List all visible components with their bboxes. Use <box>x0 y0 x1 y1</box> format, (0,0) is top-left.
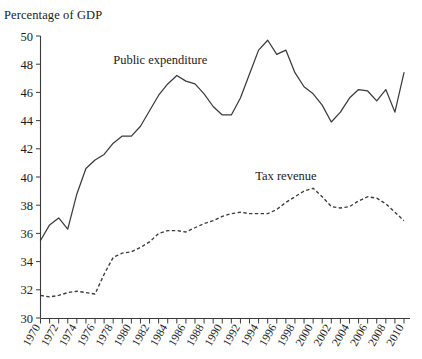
x-tick-label: 1974 <box>57 322 79 348</box>
x-tick-label: 1986 <box>166 322 188 348</box>
y-tick-label: 44 <box>21 114 34 128</box>
x-tick-label: 1972 <box>39 322 61 348</box>
y-tick-label: 40 <box>21 171 34 185</box>
x-tick-label: 1994 <box>238 322 260 348</box>
x-tick-label: 1980 <box>111 322 133 348</box>
x-tick-label: 1988 <box>184 322 206 348</box>
x-tick-label: 1992 <box>220 322 242 348</box>
chart-container: Percentage of GDP 5048464442403836343230… <box>0 0 422 359</box>
x-tick-label: 2010 <box>384 322 406 348</box>
line-chart: 5048464442403836343230 19701972197419761… <box>0 0 422 359</box>
y-axis-tick-marks <box>36 36 41 318</box>
x-tick-label: 2002 <box>311 322 333 348</box>
y-tick-label: 36 <box>21 227 34 241</box>
x-tick-label: 2008 <box>366 322 388 348</box>
x-tick-label: 1984 <box>148 322 170 348</box>
series-line-public-expenditure <box>41 40 405 240</box>
x-tick-label: 2004 <box>329 322 351 348</box>
x-tick-label: 1978 <box>93 322 115 348</box>
y-tick-label: 46 <box>21 86 34 100</box>
x-tick-label: 1990 <box>202 322 224 348</box>
x-tick-label: 1998 <box>275 322 297 348</box>
series-label-tax-revenue: Tax revenue <box>255 169 317 183</box>
x-tick-label: 2006 <box>347 322 369 348</box>
y-tick-label: 38 <box>21 199 34 213</box>
x-tick-label: 1970 <box>20 322 42 348</box>
y-axis-tick-labels: 5048464442403836343230 <box>21 30 34 326</box>
y-tick-label: 34 <box>21 255 34 269</box>
x-tick-label: 1982 <box>129 322 151 348</box>
x-tick-label: 1976 <box>75 322 97 348</box>
y-tick-label: 50 <box>21 30 34 44</box>
x-tick-label: 1996 <box>257 322 279 348</box>
x-axis-tick-marks <box>41 319 405 324</box>
y-tick-label: 42 <box>21 142 34 156</box>
series-label-public-expenditure: Public expenditure <box>113 53 208 67</box>
x-axis-tick-labels: 1970197219741976197819801982198419861988… <box>20 322 406 348</box>
y-tick-label: 32 <box>21 283 34 297</box>
series-line-tax-revenue <box>41 188 405 297</box>
y-tick-label: 48 <box>21 58 34 72</box>
chart-axis-title: Percentage of GDP <box>4 8 102 23</box>
x-tick-label: 2000 <box>293 322 315 348</box>
